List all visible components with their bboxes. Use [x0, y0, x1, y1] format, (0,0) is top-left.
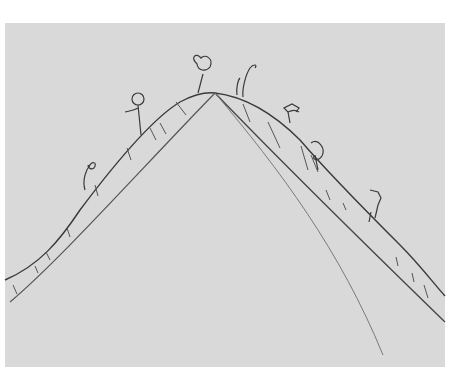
right-hatching	[243, 104, 428, 298]
climber-figure-1	[84, 163, 95, 190]
climber-figure-2	[125, 93, 144, 135]
climber-figure-6	[311, 142, 323, 170]
right-slope-line	[215, 93, 445, 322]
climber-figure-3	[194, 55, 211, 93]
climber-figure-7	[369, 190, 381, 222]
left-hatching	[13, 102, 186, 294]
climber-figure-4	[237, 65, 256, 97]
light-pencil-line	[215, 93, 383, 355]
left-slope-line	[10, 93, 215, 302]
mountain-drawing	[0, 0, 464, 389]
climber-figure-5	[284, 104, 299, 123]
